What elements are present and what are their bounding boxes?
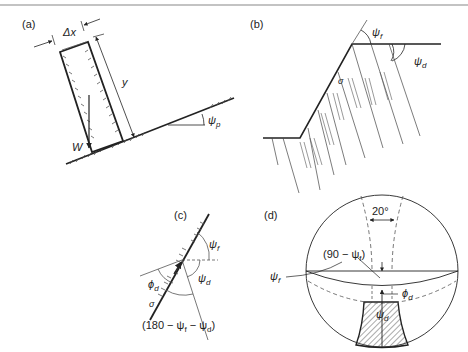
c-psi-f-label: ψf (209, 238, 220, 253)
panel-c: (c) ψf ψd ϕd σ (180 − ψf − ψd) (140, 209, 220, 340)
d-phi-d-label: ϕd (402, 287, 413, 302)
c-phi-d-label: ϕd (148, 278, 159, 293)
psi-f-label: ψf (372, 26, 383, 41)
psi-p-label: ψp (208, 114, 221, 129)
panel-b: (b) ψf ψd σ (250, 18, 441, 193)
panel-d: (d) 20° (90 − ψf) ϕd ψd ψf (264, 195, 458, 348)
panel-a-label: (a) (22, 18, 35, 30)
d-ninety-label: (90 − ψf) (323, 248, 365, 263)
c-psi-d-label: ψd (198, 272, 211, 287)
c-sigma-label: σ (149, 299, 155, 309)
d-20deg-label: 20° (372, 205, 389, 217)
d-psi-f-label: ψf (270, 270, 281, 285)
psi-d-label: ψd (414, 55, 427, 70)
c-expression: (180 − ψf − ψd) (142, 319, 215, 334)
y-label: y (121, 76, 129, 88)
panel-a: (a) Δx y W ψp (22, 18, 234, 164)
w-label: W (72, 141, 84, 153)
figure-canvas: (a) Δx y W ψp (b) ψf (0, 0, 468, 352)
panel-d-label: (d) (264, 209, 277, 221)
panel-b-label: (b) (250, 18, 263, 30)
panel-c-label: (c) (174, 209, 187, 221)
dx-label: Δx (62, 26, 76, 38)
